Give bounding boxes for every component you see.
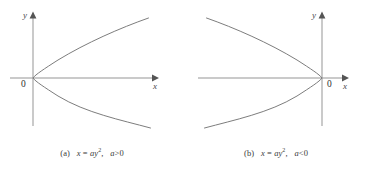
y-axis-arrowhead-b: [319, 12, 326, 19]
caption-lhs-a: x: [77, 148, 81, 158]
caption-lhs-b: x: [261, 148, 265, 158]
caption-a: (a) x = ay2, a>0: [0, 148, 184, 158]
caption-b: (b) x = ay2, a<0: [184, 148, 368, 158]
parabola-curve-b: [205, 18, 323, 128]
caption-index-b: (b): [244, 148, 254, 158]
x-axis-label-a: x: [153, 82, 157, 91]
y-axis-arrowhead-a: [30, 12, 37, 19]
caption-equals-a: =: [83, 148, 88, 158]
parabola-figure: y x 0 (a) x = ay2, a>0 y x 0: [0, 0, 368, 170]
caption-condition-value-a: 0: [119, 148, 123, 158]
origin-label-b: 0: [327, 80, 332, 90]
caption-equals-b: =: [267, 148, 272, 158]
y-axis-label-a: y: [23, 11, 27, 20]
caption-comma-a: ,: [101, 148, 103, 158]
plot-a: [0, 0, 184, 140]
plot-b: [184, 0, 368, 140]
caption-comma-b: ,: [285, 148, 287, 158]
parabola-curve-a: [33, 18, 151, 128]
origin-label-a: 0: [21, 80, 26, 90]
y-axis-label-b: y: [312, 11, 316, 20]
caption-condition-value-b: 0: [304, 148, 308, 158]
x-axis-label-b: x: [343, 82, 347, 91]
panel-b: y x 0 (b) x = ay2, a<0: [184, 0, 368, 170]
panel-a: y x 0 (a) x = ay2, a>0: [0, 0, 184, 170]
caption-index-a: (a): [60, 148, 70, 158]
